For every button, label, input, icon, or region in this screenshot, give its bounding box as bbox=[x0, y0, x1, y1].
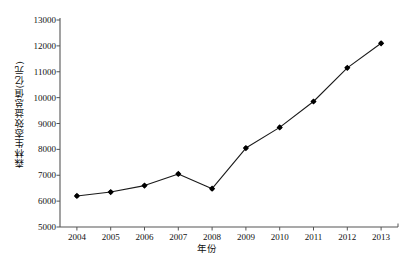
x-axis-title-text: 年份 bbox=[197, 243, 217, 254]
x-axis-title: 年份 bbox=[0, 241, 414, 255]
x-axis-tick-labels: 2004200520062007200820092010201120122013 bbox=[0, 0, 414, 271]
chart-figure: 森林生态效益总值(亿元) 500060007000800090001000011… bbox=[0, 0, 414, 271]
